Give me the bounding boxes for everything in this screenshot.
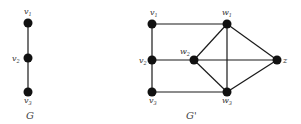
node-label-v1: v1 xyxy=(24,7,32,17)
node-label-v3: v3 xyxy=(24,96,32,106)
edge-w3-z xyxy=(227,60,277,92)
edge-w2-w3 xyxy=(194,60,227,92)
node-label-w3: w3 xyxy=(222,96,232,106)
edge-w2-w1 xyxy=(194,24,227,60)
node-v1 xyxy=(24,19,33,28)
node-v2 xyxy=(148,56,157,65)
node-label-v2: v2 xyxy=(12,54,20,64)
node-label-z: z xyxy=(282,56,288,65)
node-z xyxy=(273,56,282,65)
node-label-v2: v2 xyxy=(139,56,147,66)
node-v2 xyxy=(24,54,33,63)
graph-caption: G xyxy=(26,110,34,121)
node-w2 xyxy=(190,56,199,65)
node-label-w1: w1 xyxy=(222,8,232,18)
node-label-v3: v3 xyxy=(149,96,157,106)
node-v1 xyxy=(148,20,157,29)
graph-caption: G' xyxy=(186,110,197,121)
node-w1 xyxy=(223,20,232,29)
graph-g-prime: v1v2v3w1w2w3zG' xyxy=(139,8,288,121)
edge-w1-z xyxy=(227,24,277,60)
graph-diagram: v1v2v3Gv1v2v3w1w2w3zG' xyxy=(0,0,301,124)
node-label-v1: v1 xyxy=(150,8,158,18)
graph-g: v1v2v3G xyxy=(12,7,34,121)
node-label-w2: w2 xyxy=(180,47,190,57)
